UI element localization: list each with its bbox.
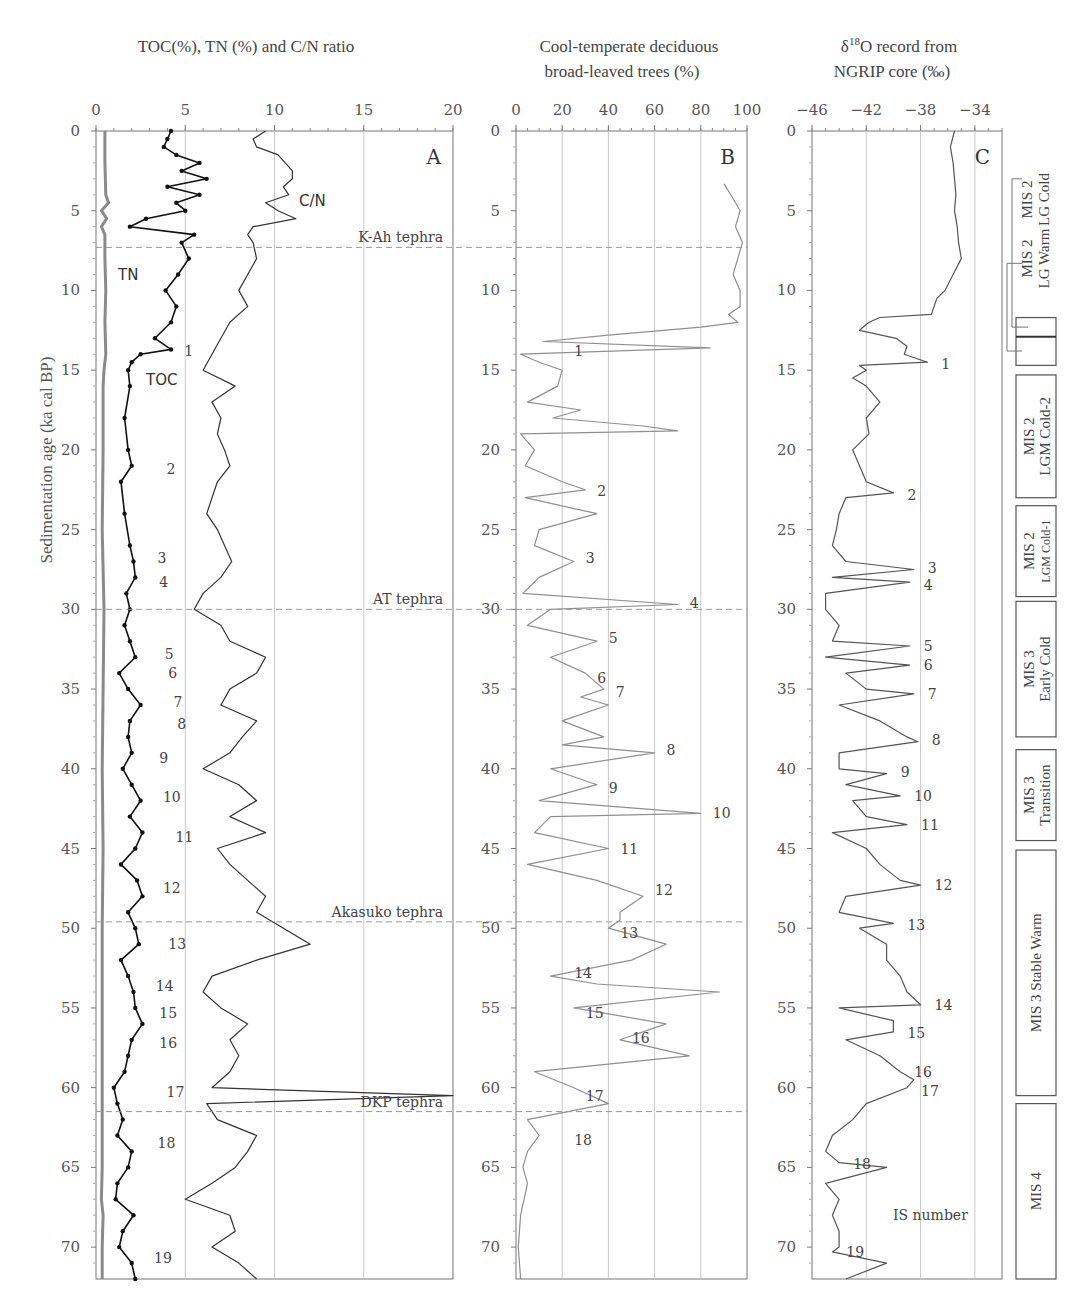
- toc-data-point: [165, 137, 169, 141]
- series-label-toc: TOC: [145, 371, 177, 389]
- toc-data-point: [130, 751, 134, 755]
- is-number-label: 11: [620, 841, 638, 857]
- y-axis-label: Sedimentation age (ka cal BP): [37, 357, 56, 564]
- y-tick-label: 55: [61, 999, 80, 1017]
- toc-data-point: [162, 145, 166, 149]
- is-number-label: 15: [907, 1025, 925, 1041]
- toc-data-point: [130, 1149, 134, 1153]
- panel-label: B: [720, 145, 735, 169]
- is-number-label: 15: [586, 1005, 604, 1021]
- is-number-label: 1: [574, 343, 583, 359]
- toc-data-point: [130, 464, 134, 468]
- is-number-label: 13: [907, 917, 925, 933]
- x-tick-label: 20: [443, 101, 462, 119]
- toc-data-point: [131, 990, 135, 994]
- is-number-label: 17: [166, 1084, 184, 1100]
- toc-data-point: [133, 1277, 137, 1281]
- is-number-label: 17: [586, 1088, 604, 1104]
- is-number-label: 1: [184, 343, 193, 359]
- y-tick-label: 55: [481, 999, 500, 1017]
- mis-stage-label: MIS 2LG Cold: [1019, 173, 1052, 226]
- is-number-label: 17: [921, 1083, 939, 1099]
- toc-data-point: [140, 830, 144, 834]
- toc-data-point: [119, 862, 123, 866]
- x-tick-label: 100: [733, 101, 762, 119]
- mis-stage-label: MIS 3 Stable Warm: [1028, 913, 1044, 1032]
- toc-data-point: [128, 639, 132, 643]
- is-number-label: 13: [620, 925, 638, 941]
- mis-label-line: MIS 2: [1021, 532, 1037, 570]
- toc-data-point: [165, 185, 169, 189]
- toc-data-point: [197, 161, 201, 165]
- toc-data-point: [117, 1245, 121, 1249]
- toc-data-point: [133, 846, 137, 850]
- tephra-label: K-Ah tephra: [358, 229, 443, 245]
- series-line-ngrip-18o: [826, 131, 962, 1279]
- is-number-label: 8: [932, 732, 941, 748]
- y-tick-label: 35: [777, 680, 796, 698]
- is-number-label: 5: [924, 638, 933, 654]
- is-number-label: 19: [154, 1250, 172, 1266]
- is-number-label: 6: [924, 657, 933, 673]
- y-tick-label: 30: [61, 600, 80, 618]
- x-tick-label: 20: [553, 101, 572, 119]
- toc-data-point: [187, 256, 191, 260]
- series-line-cool-temperate-deciduous-broad-leaved-trees: [518, 184, 742, 1279]
- mis-stage-label: MIS 2LG Warm: [1019, 228, 1052, 288]
- mis-label-line: MIS 3: [1021, 776, 1037, 814]
- is-number-label: 3: [586, 550, 595, 566]
- x-tick-label: 80: [691, 101, 710, 119]
- series-line-toc: [114, 131, 207, 1279]
- is-number-label: 1: [941, 356, 950, 372]
- y-tick-label: 35: [61, 680, 80, 698]
- is-number-label: 11: [175, 829, 193, 845]
- mis-label-line: MIS 3: [1021, 650, 1037, 688]
- toc-data-point: [176, 272, 180, 276]
- is-number-label: 15: [159, 1005, 177, 1021]
- panel-label: C: [975, 145, 990, 169]
- toc-data-point: [115, 1133, 119, 1137]
- is-number-annotation: IS number: [893, 1207, 968, 1223]
- is-number-label: 6: [168, 665, 177, 681]
- mis-label-line: LG Warm: [1036, 228, 1052, 288]
- is-number-label: 14: [935, 997, 953, 1013]
- mis-stage-label: MIS 4: [1028, 1172, 1044, 1210]
- mis-label-line: Transition: [1037, 764, 1053, 826]
- toc-data-point: [117, 671, 121, 675]
- y-tick-label: 20: [61, 441, 80, 459]
- is-number-label: 7: [174, 694, 183, 710]
- toc-data-point: [133, 926, 137, 930]
- is-number-label: 12: [655, 882, 673, 898]
- figure: TOC(%), TN (%) and C/N ratio Cool-temper…: [0, 0, 1089, 1306]
- toc-data-point: [121, 1117, 125, 1121]
- mis-stage-label: MIS 2LGM Cold-2: [1021, 397, 1053, 476]
- x-tick-label: 0: [511, 101, 521, 119]
- toc-data-point: [133, 1006, 137, 1010]
- toc-data-point: [126, 1165, 130, 1169]
- is-number-label: 4: [159, 574, 168, 590]
- y-tick-label: 60: [777, 1079, 796, 1097]
- is-number-label: 18: [574, 1132, 592, 1148]
- is-number-label: 12: [935, 877, 953, 893]
- y-tick-label: 0: [490, 122, 500, 140]
- toc-data-point: [121, 1229, 125, 1233]
- toc-data-point: [126, 448, 130, 452]
- panel-c-title-line2: NGRIP core (‰): [834, 62, 950, 81]
- y-tick-label: 20: [481, 441, 500, 459]
- is-number-label: 9: [159, 750, 168, 766]
- is-number-label: 10: [163, 789, 181, 805]
- panel-b: 0204060801000510152025303540455055606570…: [481, 101, 761, 1279]
- panel-label: A: [426, 145, 442, 169]
- mis-label-line: MIS 3 Stable Warm: [1028, 913, 1044, 1032]
- y-tick-label: 20: [777, 441, 796, 459]
- toc-data-point: [128, 719, 132, 723]
- toc-data-point: [179, 240, 183, 244]
- x-tick-label: 15: [354, 101, 373, 119]
- is-number-label: 18: [853, 1156, 871, 1172]
- x-tick-label: −46: [796, 101, 828, 119]
- y-tick-label: 60: [61, 1079, 80, 1097]
- toc-data-point: [130, 1038, 134, 1042]
- is-number-label: 6: [597, 670, 606, 686]
- tephra-lines: K-Ah tephraAT tephraAkasuko tephraDKP te…: [96, 229, 747, 1111]
- y-tick-label: 25: [481, 521, 500, 539]
